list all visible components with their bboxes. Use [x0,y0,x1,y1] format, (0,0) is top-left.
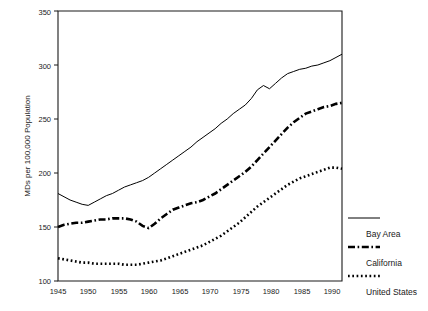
legend-label-united-states: United States [366,287,417,297]
y-tick-label: 250 [38,115,51,124]
series-line-united-states [58,168,342,265]
legend-label-california: California [366,258,402,268]
x-tick-label: 1945 [50,287,67,296]
x-axis-tick-labels: 1945 1950 1955 1960 1965 1970 1975 1980 … [50,287,341,296]
y-axis-tick-labels: 100 150 200 250 300 350 [38,8,51,286]
legend-label-bay-area: Bay Area [366,229,401,239]
x-tick-label: 1970 [202,287,219,296]
y-axis-title: MDs per 100,000 Population [23,95,32,196]
x-tick-label: 1950 [80,287,97,296]
series-line-bay-area [58,54,342,205]
x-tick-label: 1975 [233,287,250,296]
chart-container: MDs per 100,000 Population 100 150 200 2… [0,0,428,311]
x-tick-label: 1985 [294,287,311,296]
line-chart: MDs per 100,000 Population 100 150 200 2… [0,0,428,311]
y-tick-label: 150 [38,223,51,232]
y-tick-label: 350 [38,8,51,17]
x-tick-label: 1980 [263,287,280,296]
x-tick-label: 1965 [172,287,189,296]
y-tick-label: 200 [38,169,51,178]
series-line-california [58,103,342,228]
plot-frame [58,11,342,281]
x-tick-label: 1990 [324,287,341,296]
y-axis-ticks [54,11,58,281]
y-tick-label: 300 [38,62,51,71]
x-tick-label: 1955 [111,287,128,296]
x-tick-label: 1960 [141,287,158,296]
y-tick-label: 100 [38,277,51,286]
chart-legend: Bay Area California United States [348,218,417,297]
series-group [58,54,342,265]
